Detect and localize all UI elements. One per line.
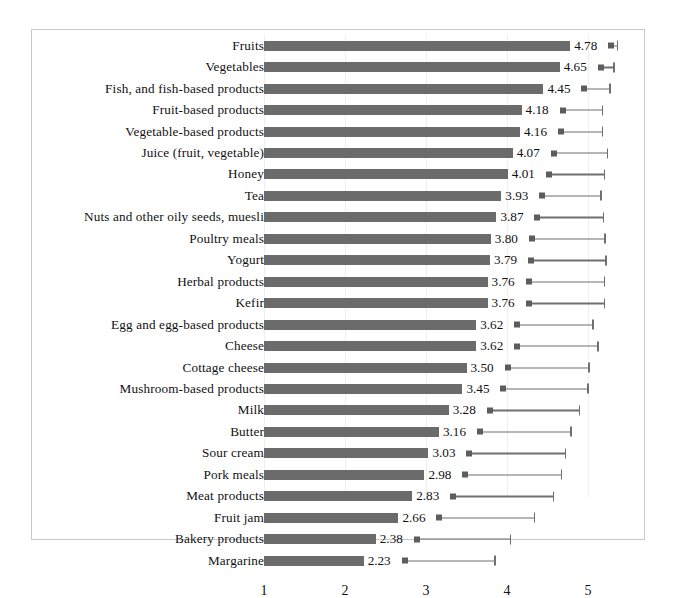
bar-value-label: 2.98 [424, 468, 451, 481]
error-bar-cap [602, 127, 603, 137]
bar [264, 405, 449, 415]
category-label: Milk [238, 404, 264, 417]
bar-value-label: 4.78 [570, 39, 597, 52]
bar [264, 169, 508, 179]
error-bar-marker [402, 558, 408, 564]
category-label: Fish, and fish-based products [105, 82, 264, 95]
bar [264, 534, 376, 544]
bar-value-label: 3.62 [476, 318, 503, 331]
error-bar-marker [450, 493, 456, 499]
bar [264, 363, 467, 373]
error-bar-marker [546, 171, 552, 177]
bar-value-label: 4.07 [513, 146, 540, 159]
error-bar-cap [602, 105, 603, 115]
error-bar-line [543, 195, 601, 196]
error-bar-marker [551, 150, 557, 156]
error-bar-marker [526, 279, 532, 285]
bar [264, 513, 398, 523]
bar-row: Kefir3.76 [32, 292, 644, 314]
bar-value-label: 2.83 [412, 490, 439, 503]
bar-row: Sour cream3.03 [32, 443, 644, 465]
bar-value-label: 3.79 [490, 254, 517, 267]
category-label: Pork meals [204, 468, 264, 481]
bar [264, 234, 491, 244]
error-bar-cap [600, 191, 601, 201]
error-bar-cap [587, 384, 588, 394]
bar-row: Margarine2.23 [32, 550, 644, 572]
category-label: Vegetable-based products [125, 125, 264, 138]
error-bar-marker [558, 129, 564, 135]
bar [264, 191, 501, 201]
category-label: Fruit jam [214, 511, 264, 524]
error-bar-cap [565, 448, 566, 458]
bar-value-label: 3.76 [488, 275, 515, 288]
error-bar-line [470, 453, 566, 454]
error-bar-line [555, 153, 609, 154]
error-bar [462, 469, 562, 480]
error-bar-cap [553, 491, 554, 501]
bar-row: Tea3.93 [32, 185, 644, 207]
bar [264, 84, 543, 94]
category-label: Fruit-based products [152, 103, 264, 116]
error-bar-marker [526, 300, 532, 306]
error-bar-line [518, 346, 598, 347]
error-bar [529, 233, 606, 244]
bar [264, 212, 496, 222]
error-bar-line [454, 496, 554, 497]
error-bar-cap [592, 320, 593, 330]
bar-value-label: 3.87 [496, 211, 523, 224]
error-bar-marker [534, 214, 540, 220]
category-label: Fruits [232, 39, 264, 52]
bar [264, 320, 476, 330]
bar-row: Egg and egg-based products3.62 [32, 314, 644, 336]
error-bar-cap [604, 234, 605, 244]
error-bar-marker [608, 43, 614, 49]
error-bar-line [564, 110, 604, 111]
chart-frame: Fruits4.78Vegetables4.65Fish, and fish-b… [31, 29, 645, 540]
bar [264, 341, 476, 351]
error-bar-marker [505, 365, 511, 371]
error-bar-cap [597, 341, 598, 351]
bar-value-label: 4.16 [520, 125, 547, 138]
bar-value-label: 2.66 [398, 511, 425, 524]
x-axis-tick-label: 3 [423, 584, 430, 598]
bar-row: Cottage cheese3.50 [32, 357, 644, 379]
category-label: Butter [230, 425, 264, 438]
error-bar [560, 105, 604, 116]
bar-value-label: 3.16 [439, 425, 466, 438]
error-bar-line [509, 367, 590, 368]
category-label: Juice (fruit, vegetable) [141, 146, 264, 159]
x-axis-tick-label: 2 [342, 584, 349, 598]
error-bar [534, 212, 604, 223]
bar-row: Mushroom-based products3.45 [32, 378, 644, 400]
category-label: Bakery products [175, 532, 264, 545]
bar-value-label: 3.03 [428, 447, 455, 460]
bar-value-label: 3.45 [462, 382, 489, 395]
error-bar [487, 405, 580, 416]
bar [264, 298, 488, 308]
bar-row: Poultry meals3.80 [32, 228, 644, 250]
error-bar-marker [466, 450, 472, 456]
bar-value-label: 2.23 [364, 554, 391, 567]
error-bar [436, 512, 535, 523]
bar-row: Pork meals2.98 [32, 464, 644, 486]
error-bar-marker [598, 64, 604, 70]
bar-row: Cheese3.62 [32, 335, 644, 357]
bar-row: Nuts and other oily seeds, muesli3.87 [32, 207, 644, 229]
bar [264, 470, 424, 480]
bar-row: Vegetable-based products4.16 [32, 121, 644, 143]
category-label: Herbal products [177, 275, 264, 288]
error-bar-cap [494, 556, 495, 566]
error-bar-cap [607, 148, 608, 158]
bar [264, 556, 364, 566]
bar [264, 427, 439, 437]
error-bar-cap [603, 212, 604, 222]
error-bar [514, 341, 598, 352]
error-bar-cap [510, 534, 511, 544]
error-bar-cap [588, 363, 589, 373]
error-bar [608, 40, 618, 51]
error-bar-line [504, 388, 588, 389]
error-bar [477, 426, 572, 437]
error-bar-cap [570, 427, 571, 437]
error-bar-line [530, 303, 605, 304]
